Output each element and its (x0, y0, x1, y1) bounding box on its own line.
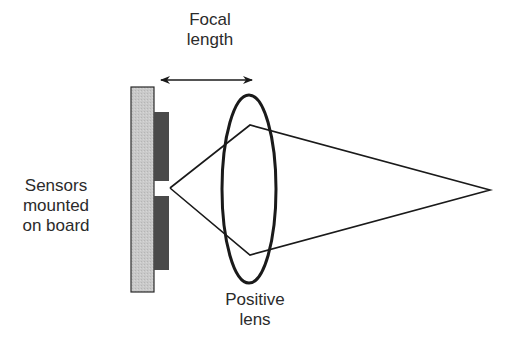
lens-label: Positive lens (210, 290, 300, 330)
sensors-label: Sensors mounted on board (0, 176, 112, 236)
focal-length-label: Focal length (160, 10, 260, 50)
focal-length-label-line1: Focal (160, 10, 260, 30)
lens-label-line1: Positive (210, 290, 300, 310)
circuit-board (131, 87, 154, 292)
ray-diagram (170, 125, 490, 255)
sensor-lower (154, 196, 169, 270)
sensors-label-line2: mounted (0, 196, 112, 216)
sensor-upper (154, 112, 169, 181)
lens-label-line2: lens (210, 310, 300, 330)
sensors-label-line3: on board (0, 216, 112, 236)
focal-length-label-line2: length (160, 30, 260, 50)
sensors-label-line1: Sensors (0, 176, 112, 196)
